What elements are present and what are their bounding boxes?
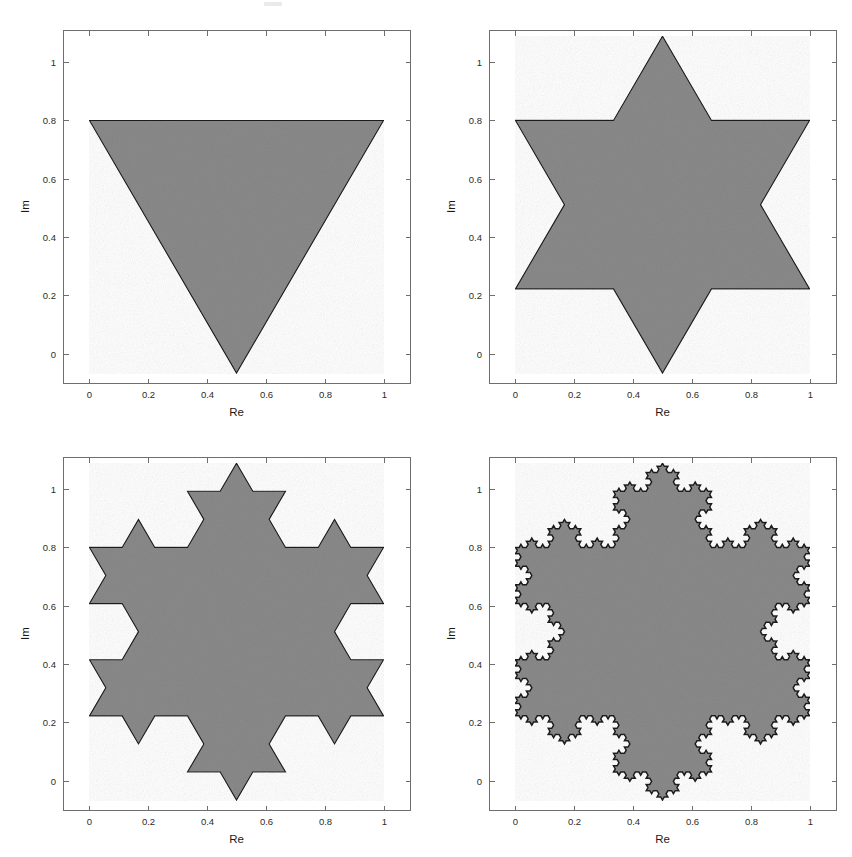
x-tick-label: 1 bbox=[808, 816, 813, 827]
y-tick-label: 0.8 bbox=[43, 115, 56, 126]
x-tick-label: 0.4 bbox=[627, 389, 640, 400]
y-tick-label: 0.6 bbox=[469, 174, 482, 185]
y-tick-label: 0.8 bbox=[469, 542, 482, 553]
y-axis-label: Im bbox=[19, 627, 31, 640]
x-tick-label: 0.2 bbox=[142, 816, 155, 827]
y-tick-label: 1 bbox=[477, 484, 482, 495]
plot-area-top-left: 00.20.40.60.8100.20.40.60.81ReIm bbox=[0, 0, 426, 428]
y-axis-label: Im bbox=[445, 627, 457, 640]
plot-svg-0: 00.20.40.60.8100.20.40.60.81ReIm bbox=[0, 0, 426, 428]
y-tick-label: 0.4 bbox=[469, 659, 482, 670]
koch-snowflake-polygon bbox=[89, 463, 383, 800]
x-tick-label: 0.8 bbox=[319, 389, 332, 400]
y-tick-label: 0.4 bbox=[43, 232, 56, 243]
x-tick-label: 0.8 bbox=[745, 389, 758, 400]
x-tick-label: 0.6 bbox=[686, 816, 699, 827]
x-tick-label: 0.4 bbox=[627, 816, 640, 827]
scan-artifact bbox=[264, 2, 282, 6]
x-axis-label: Re bbox=[229, 833, 244, 845]
plot-area-top-right: 00.20.40.60.8100.20.40.60.81ReIm bbox=[426, 0, 852, 428]
x-tick-label: 0.2 bbox=[568, 816, 581, 827]
panel-bottom-right: 00.20.40.60.8100.20.40.60.81ReIm bbox=[426, 428, 852, 856]
y-tick-label: 1 bbox=[51, 484, 56, 495]
y-tick-label: 0.6 bbox=[43, 601, 56, 612]
x-tick-label: 0.6 bbox=[260, 816, 273, 827]
x-tick-label: 0.6 bbox=[260, 389, 273, 400]
y-axis-label: Im bbox=[19, 200, 31, 213]
x-tick-label: 0.6 bbox=[686, 389, 699, 400]
x-tick-label: 0.2 bbox=[142, 389, 155, 400]
y-tick-label: 0.2 bbox=[469, 290, 482, 301]
panel-top-left: 00.20.40.60.8100.20.40.60.81ReIm bbox=[0, 0, 426, 428]
plot-svg-1: 00.20.40.60.8100.20.40.60.81ReIm bbox=[426, 0, 852, 428]
y-tick-label: 0.4 bbox=[469, 232, 482, 243]
y-tick-label: 0.2 bbox=[43, 290, 56, 301]
plot-svg-2: 00.20.40.60.8100.20.40.60.81ReIm bbox=[0, 428, 426, 857]
panel-bottom-left: 00.20.40.60.8100.20.40.60.81ReIm bbox=[0, 428, 426, 856]
y-tick-label: 0 bbox=[51, 349, 56, 360]
y-tick-label: 1 bbox=[51, 57, 56, 68]
panel-top-right: 00.20.40.60.8100.20.40.60.81ReIm bbox=[426, 0, 852, 428]
figure-grid: 00.20.40.60.8100.20.40.60.81ReIm 00.20.4… bbox=[0, 0, 852, 857]
x-axis-label: Re bbox=[229, 406, 244, 418]
x-tick-label: 0 bbox=[513, 389, 518, 400]
plot-area-bottom-left: 00.20.40.60.8100.20.40.60.81ReIm bbox=[0, 428, 426, 856]
x-tick-label: 0 bbox=[87, 816, 92, 827]
y-axis-label: Im bbox=[445, 200, 457, 213]
x-tick-label: 0 bbox=[513, 816, 518, 827]
x-tick-label: 1 bbox=[382, 389, 387, 400]
x-tick-label: 0.4 bbox=[201, 389, 214, 400]
x-axis-label: Re bbox=[655, 406, 670, 418]
x-tick-label: 0.2 bbox=[568, 389, 581, 400]
y-tick-label: 0.4 bbox=[43, 659, 56, 670]
y-tick-label: 0 bbox=[477, 776, 482, 787]
x-tick-label: 0.8 bbox=[319, 816, 332, 827]
x-tick-label: 0.8 bbox=[745, 816, 758, 827]
y-tick-label: 0.2 bbox=[469, 717, 482, 728]
y-tick-label: 0 bbox=[477, 349, 482, 360]
y-tick-label: 0.2 bbox=[43, 717, 56, 728]
koch-snowflake-polygon bbox=[89, 120, 383, 373]
y-tick-label: 0.8 bbox=[469, 115, 482, 126]
y-tick-label: 0.6 bbox=[469, 601, 482, 612]
y-tick-label: 0 bbox=[51, 776, 56, 787]
koch-snowflake-polygon bbox=[515, 463, 809, 800]
x-tick-label: 1 bbox=[382, 816, 387, 827]
plot-svg-3: 00.20.40.60.8100.20.40.60.81ReIm bbox=[426, 428, 852, 857]
y-tick-label: 1 bbox=[477, 57, 482, 68]
y-tick-label: 0.8 bbox=[43, 542, 56, 553]
koch-snowflake-polygon bbox=[515, 36, 809, 373]
x-tick-label: 1 bbox=[808, 389, 813, 400]
x-tick-label: 0 bbox=[87, 389, 92, 400]
x-axis-label: Re bbox=[655, 833, 670, 845]
x-tick-label: 0.4 bbox=[201, 816, 214, 827]
plot-area-bottom-right: 00.20.40.60.8100.20.40.60.81ReIm bbox=[426, 428, 852, 856]
y-tick-label: 0.6 bbox=[43, 174, 56, 185]
